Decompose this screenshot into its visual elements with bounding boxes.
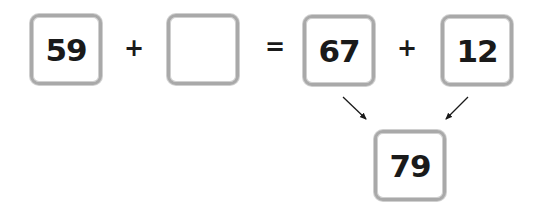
arrow-down-right-icon xyxy=(343,97,366,119)
arrows-layer xyxy=(0,0,545,215)
arrow-down-left-icon xyxy=(446,97,468,119)
